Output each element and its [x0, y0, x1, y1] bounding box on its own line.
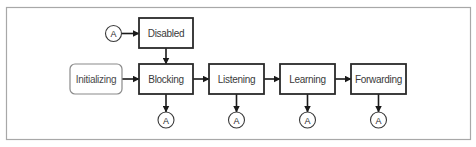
connector-label: A: [375, 116, 381, 126]
connector-label: A: [163, 116, 169, 126]
connector-a-learning: A: [300, 112, 316, 128]
connector-a-listening: A: [229, 112, 245, 128]
state-node-disabled: Disabled: [139, 18, 193, 48]
connector-a-forwarding: A: [371, 112, 387, 128]
state-node-listening: Listening: [209, 64, 264, 94]
listening-label: Listening: [218, 74, 255, 85]
state-node-initializing: Initializing: [70, 64, 122, 94]
learning-label: Learning: [289, 74, 326, 85]
state-diagram: InitializingDisabledBlockingListeningLea…: [0, 0, 476, 147]
connector-label: A: [304, 116, 310, 126]
initializing-label: Initializing: [76, 74, 116, 85]
connector-a-blocking: A: [158, 112, 174, 128]
state-node-blocking: Blocking: [139, 64, 193, 94]
forwarding-label: Forwarding: [355, 74, 402, 85]
connector-label: A: [110, 29, 116, 39]
disabled-label: Disabled: [148, 28, 185, 39]
state-node-learning: Learning: [280, 64, 335, 94]
blocking-label: Blocking: [148, 74, 183, 85]
connector-label: A: [233, 116, 239, 126]
connector-a-disabled: A: [106, 26, 122, 42]
state-node-forwarding: Forwarding: [351, 64, 406, 94]
